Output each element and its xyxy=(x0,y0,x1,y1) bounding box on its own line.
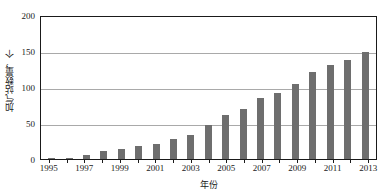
bar xyxy=(205,125,212,159)
x-axis-tick-label: 1997 xyxy=(75,163,93,173)
bar xyxy=(327,65,334,159)
bar xyxy=(66,158,73,159)
y-axis-tick-label: 50 xyxy=(26,119,35,129)
x-axis-title: 年份 xyxy=(40,178,377,191)
x-axis-tick-label: 1999 xyxy=(111,163,129,173)
x-axis-tick-label: 2005 xyxy=(217,163,235,173)
bar-chart-figure: 加气站数量，个 050100150200 1995199719992001200… xyxy=(0,0,385,196)
bar xyxy=(309,72,316,159)
x-axis-tick-label: 2003 xyxy=(182,163,200,173)
bar xyxy=(118,149,125,159)
plot-area xyxy=(40,16,377,160)
y-axis-title-text: 加气站数量，个 xyxy=(2,49,15,112)
bar xyxy=(257,98,264,159)
y-axis-tick-label: 0 xyxy=(31,155,36,165)
x-axis-tick-label: 2011 xyxy=(324,163,342,173)
x-axis-tick-label: 2001 xyxy=(146,163,164,173)
y-axis-tick-label: 150 xyxy=(22,47,36,57)
x-axis-tick-label: 1995 xyxy=(40,163,58,173)
x-axis-tick-labels: 1995199719992001200320052007200920112013 xyxy=(40,163,377,177)
y-axis-tick-label: 200 xyxy=(22,11,36,21)
bar xyxy=(187,135,194,159)
y-axis-tick-label: 100 xyxy=(22,83,36,93)
bar xyxy=(344,60,351,159)
bar-series xyxy=(41,17,376,159)
bar xyxy=(274,93,281,159)
bar xyxy=(153,144,160,159)
bar xyxy=(292,84,299,159)
y-axis-tick-labels: 050100150200 xyxy=(14,0,38,176)
bar xyxy=(362,52,369,159)
bar xyxy=(48,158,55,159)
bar xyxy=(240,109,247,159)
bar xyxy=(135,146,142,159)
x-axis-tick-label: 2009 xyxy=(288,163,306,173)
bar xyxy=(222,115,229,159)
bar xyxy=(83,155,90,159)
bar xyxy=(100,151,107,159)
x-axis-tick-label: 2013 xyxy=(359,163,377,173)
x-axis-tick-label: 2007 xyxy=(253,163,271,173)
bar xyxy=(170,139,177,159)
